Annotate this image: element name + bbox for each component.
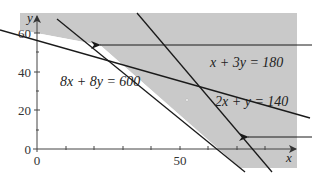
y-tick-0: 0 xyxy=(25,142,32,157)
lp-graph: 60 40 20 0 0 50 y x x + 3y = 180 8x + 8y… xyxy=(0,0,312,175)
y-axis-label: y xyxy=(25,10,33,25)
label-8x-plus-8y-600: 8x + 8y = 600 xyxy=(60,74,140,89)
label-2x-plus-y-140: 2x + y = 140 xyxy=(215,94,288,109)
marker-dot xyxy=(186,99,189,102)
y-tick-20: 20 xyxy=(18,103,31,118)
label-x-plus-3y-180: x + 3y = 180 xyxy=(209,55,283,70)
x-tick-50: 50 xyxy=(174,153,187,168)
y-tick-40: 40 xyxy=(18,65,31,80)
x-tick-0: 0 xyxy=(34,153,41,168)
x-axis-label: x xyxy=(285,150,292,165)
